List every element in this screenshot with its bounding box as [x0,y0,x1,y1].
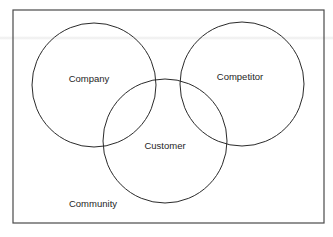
customer-label: Customer [144,141,185,151]
venn-diagram [0,0,333,237]
competitor-label: Competitor [217,72,263,82]
community-frame [13,10,324,223]
community-label: Community [69,199,117,209]
competitor-circle [180,22,304,146]
company-label: Company [69,74,110,84]
